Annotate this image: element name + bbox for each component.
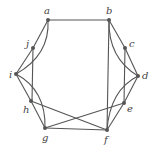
label-d: d — [142, 70, 148, 81]
edge-j-h — [32, 48, 33, 101]
vertex-c — [123, 46, 127, 50]
vertex-b — [107, 18, 111, 22]
label-g: g — [42, 132, 48, 143]
edge-c-e — [124, 48, 125, 103]
graph-diagram: a b c d e f g h i j — [0, 0, 158, 152]
edge-b-f — [107, 20, 109, 130]
edge-j-i — [16, 48, 33, 74]
vertex-f — [105, 128, 109, 132]
vertex-a — [46, 18, 50, 22]
label-c: c — [129, 38, 135, 49]
label-b: b — [106, 5, 112, 16]
vertex-g — [43, 126, 47, 130]
label-a: a — [44, 5, 50, 16]
vertex-e — [122, 101, 126, 105]
label-e: e — [127, 103, 133, 114]
edge-b-c — [109, 20, 125, 48]
vertex-d — [136, 74, 140, 78]
edges — [16, 20, 138, 130]
label-j: j — [24, 38, 29, 49]
label-f: f — [103, 134, 110, 145]
edge-g-f — [45, 128, 107, 130]
label-h: h — [23, 104, 29, 115]
edge-a-j — [33, 20, 48, 48]
edge-h-f — [31, 101, 107, 130]
vertex-j — [31, 46, 35, 50]
label-i: i — [9, 69, 12, 80]
labels: a b c d e f g h i j — [9, 5, 148, 145]
vertex-i — [14, 72, 18, 76]
vertex-h — [29, 99, 33, 103]
